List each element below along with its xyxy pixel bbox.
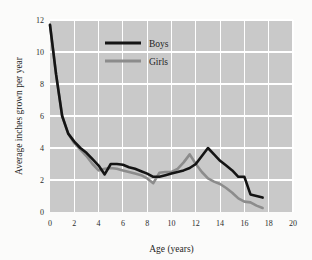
x-axis-title: Age (years) — [149, 244, 194, 255]
x-tick-label: 10 — [168, 219, 176, 228]
legend-label-boys: Boys — [149, 39, 169, 49]
x-tick-label: 2 — [72, 219, 76, 228]
y-axis-title: Average inches grown per year — [14, 56, 24, 175]
x-tick-label: 4 — [97, 219, 101, 228]
y-tick-label: 6 — [40, 112, 44, 121]
x-tick-label: 16 — [240, 219, 248, 228]
y-tick-label: 12 — [36, 16, 44, 25]
x-tick-label: 14 — [216, 219, 224, 228]
x-tick-label: 12 — [192, 219, 200, 228]
y-tick-label: 4 — [40, 144, 44, 153]
x-tick-label: 0 — [48, 219, 52, 228]
x-tick-label: 20 — [289, 219, 297, 228]
legend-label-girls: Girls — [149, 57, 168, 67]
y-tick-label: 8 — [40, 80, 44, 89]
growth-rate-line-chart: 02468101214161820 024681012 Age (years) … — [0, 0, 312, 260]
x-tick-label: 6 — [121, 219, 125, 228]
x-tick-label: 8 — [145, 219, 149, 228]
y-tick-label: 10 — [36, 48, 44, 57]
x-tick-label: 18 — [265, 219, 273, 228]
y-tick-label: 0 — [40, 208, 44, 217]
y-tick-label: 2 — [40, 176, 44, 185]
